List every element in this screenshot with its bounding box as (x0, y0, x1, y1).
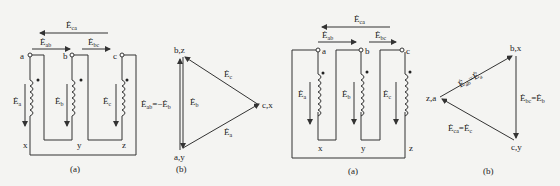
coil-c (122, 80, 125, 116)
label-c: c (113, 51, 117, 61)
label-y-right: y (361, 143, 366, 153)
terminal-b (70, 53, 74, 57)
wire-bc (74, 55, 122, 140)
label-ebc-right: Ėbc (375, 30, 387, 41)
phasor-ec-left (185, 57, 259, 105)
terminal-a (28, 53, 32, 57)
label-b-right: b (365, 46, 370, 56)
coil-b-right (361, 74, 364, 116)
label-a-right: a (322, 46, 326, 56)
terminal-c (120, 53, 124, 57)
label-ec-phasor-left: Ėc (224, 69, 233, 80)
terminal-c-right (400, 48, 404, 52)
caption-left-a: (a) (70, 164, 80, 174)
label-ea-phasor-left: Ėa (224, 127, 233, 138)
phasor-ea-left (183, 104, 259, 148)
label-eca-eq-right: Ėca=Ėc (448, 123, 472, 134)
vertex-bz: b,z (174, 45, 185, 55)
transformer-connection-diagram: Ėca Ėab Ėbc a b c Ėa Ėb Ėc x y z (a (0, 0, 560, 186)
wire-ab (32, 55, 72, 140)
label-eb-phasor-left: Ėb (190, 97, 199, 108)
wire-b-right (361, 50, 400, 140)
label-z-right: z (409, 143, 413, 153)
label-ebc-left: Ėbc (88, 37, 100, 48)
left-circuit: Ėca Ėab Ėbc a b c Ėa Ėb Ėc x y z (a (13, 20, 136, 174)
coil-c-right (405, 74, 408, 116)
label-ec-right: Ėc (383, 89, 392, 100)
label-a: a (20, 51, 24, 61)
terminal-b-right (359, 48, 363, 52)
label-eca-left: Ėca (66, 20, 77, 31)
label-b: b (63, 51, 68, 61)
label-ea-right: Ėa (298, 89, 307, 100)
vertex-cx: c,x (262, 100, 273, 110)
label-eb-right: Ėb (342, 89, 351, 100)
label-eab-left: Ėab (40, 37, 51, 48)
wire-outer-right (292, 50, 405, 158)
label-ebc-eq-right: Ėbc=Ėb (520, 93, 545, 104)
polarity-dot-a-right (322, 72, 325, 75)
right-circuit: Ėca Ėab Ėbc a b c Ėa Ėb Ėc x y z (a) (292, 14, 413, 176)
label-x: x (23, 140, 28, 150)
caption-left-b: (b) (176, 164, 187, 174)
label-ea-left: Ėa (13, 96, 22, 107)
polarity-dot-c-right (409, 71, 412, 74)
caption-right-b: (b) (483, 166, 494, 176)
vertex-bx: b,x (510, 43, 522, 53)
label-x-right: x (318, 143, 323, 153)
polarity-dot-b-right (366, 71, 369, 74)
label-ec-left: Ėc (103, 96, 112, 107)
label-eb-left: Ėb (55, 96, 64, 107)
terminal-a-right (316, 48, 320, 52)
left-phasor: b,z c,x a,y Ėab=−Ėb Ėb Ėc Ėa (b) (141, 45, 273, 174)
coil-a (30, 80, 33, 116)
label-eab-right: Ėab (322, 30, 333, 41)
label-eca-right: Ėca (354, 14, 365, 25)
right-phasor: b,x z,a c,y Ėab=Ėa Ėbc=Ėb Ėca=Ėc (b) (426, 43, 545, 176)
label-z: z (122, 140, 126, 150)
label-c-right: c (406, 46, 410, 56)
label-eab-eq-right: Ėab=Ėa (457, 69, 484, 90)
label-eab-eq-left: Ėab=−Ėb (141, 99, 171, 110)
polarity-dot-a (37, 79, 40, 82)
vertex-cy: c,y (511, 142, 522, 152)
wire-a-right (318, 50, 359, 140)
polarity-dot-c (126, 79, 129, 82)
coil-b (72, 80, 75, 116)
label-y: y (77, 140, 82, 150)
vertex-ay: a,y (174, 152, 185, 162)
caption-right-a: (a) (348, 166, 358, 176)
vertex-za: z,a (426, 93, 436, 103)
coil-a-right (318, 74, 321, 116)
polarity-dot-b (80, 79, 83, 82)
